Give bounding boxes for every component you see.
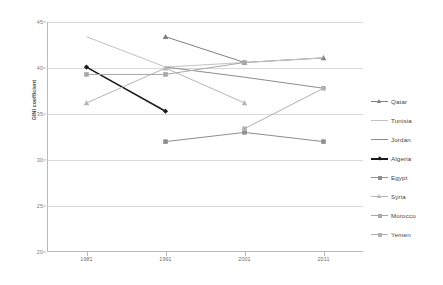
data-point-marker — [321, 86, 326, 91]
x-tick-mark — [87, 252, 88, 256]
series-lines — [47, 22, 363, 252]
legend-label: Yemen — [391, 231, 411, 238]
data-point-marker — [84, 100, 90, 105]
legend: QatarTunisiaJordanAlgeriaEgyptSyriaMoroc… — [371, 92, 441, 244]
series-line — [166, 37, 324, 63]
y-tick-label: 45 — [17, 19, 43, 25]
data-point-marker — [84, 72, 89, 77]
series-line — [245, 88, 324, 128]
legend-label: Jordan — [391, 136, 411, 143]
legend-key-icon — [371, 154, 388, 163]
legend-item-qatar[interactable]: Qatar — [371, 92, 441, 111]
gini-coefficient-line-chart: GINI coefficient 202530354045 1981199120… — [0, 0, 443, 285]
y-axis-tick-labels: 202530354045 — [12, 22, 43, 252]
series-jordan — [166, 67, 324, 88]
legend-label: Egypt — [391, 174, 408, 181]
plot-area — [47, 22, 363, 252]
series-algeria — [84, 64, 168, 113]
legend-item-algeria[interactable]: Algeria — [371, 149, 441, 168]
data-point-marker — [321, 139, 326, 144]
legend-label: Tunisia — [391, 117, 412, 124]
y-tick-mark — [43, 160, 46, 161]
y-tick-mark — [43, 252, 46, 253]
legend-item-jordan[interactable]: Jordan — [371, 130, 441, 149]
legend-key-icon — [371, 230, 388, 239]
legend-item-egypt[interactable]: Egypt — [371, 168, 441, 187]
legend-item-tunisia[interactable]: Tunisia — [371, 111, 441, 130]
x-tick-mark — [324, 252, 325, 256]
legend-item-morocco[interactable]: Morocco — [371, 206, 441, 225]
series-tunisia — [87, 37, 324, 67]
y-tick-mark — [43, 114, 46, 115]
x-axis-tick-labels: 1981199120012011 — [47, 256, 363, 268]
data-point-marker — [242, 126, 247, 131]
series-egypt — [163, 130, 326, 144]
x-tick-label: 2011 — [304, 256, 344, 262]
y-tick-mark — [43, 68, 46, 69]
data-point-marker — [242, 60, 247, 65]
y-tick-label: 30 — [17, 157, 43, 163]
x-tick-label: 2001 — [225, 256, 265, 262]
legend-label: Morocco — [391, 212, 416, 219]
series-line — [166, 67, 324, 88]
series-syria — [84, 65, 248, 105]
legend-key-icon — [371, 173, 388, 182]
y-tick-label: 25 — [17, 203, 43, 209]
x-tick-label: 1991 — [146, 256, 186, 262]
data-point-marker — [163, 72, 168, 77]
legend-item-syria[interactable]: Syria — [371, 187, 441, 206]
data-point-marker — [242, 100, 248, 105]
legend-key-icon — [371, 135, 388, 144]
y-tick-mark — [43, 206, 46, 207]
legend-key-icon — [371, 192, 388, 201]
data-point-marker — [163, 34, 169, 39]
y-tick-mark — [43, 22, 46, 23]
x-tick-mark — [166, 252, 167, 256]
legend-key-icon — [371, 116, 388, 125]
y-tick-label: 40 — [17, 65, 43, 71]
data-point-marker — [163, 139, 168, 144]
x-tick-label: 1981 — [67, 256, 107, 262]
legend-label: Syria — [391, 193, 406, 200]
series-line — [87, 37, 324, 67]
x-tick-mark — [245, 252, 246, 256]
y-tick-label: 20 — [17, 249, 43, 255]
y-tick-label: 35 — [17, 111, 43, 117]
legend-label: Qatar — [391, 98, 407, 105]
legend-item-yemen[interactable]: Yemen — [371, 225, 441, 244]
legend-label: Algeria — [391, 155, 411, 162]
legend-key-icon — [371, 211, 388, 220]
series-yemen — [242, 86, 326, 131]
legend-key-icon — [371, 97, 388, 106]
